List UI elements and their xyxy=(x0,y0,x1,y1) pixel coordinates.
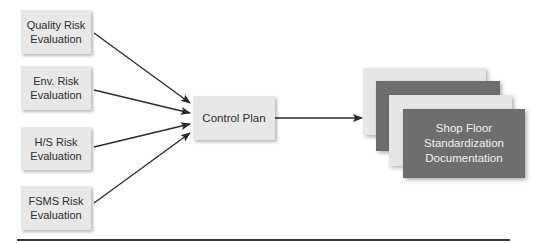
bottom-divider xyxy=(17,239,510,241)
box-label-line2: Evaluation xyxy=(29,208,84,222)
arrow-quality-to-control xyxy=(94,33,190,103)
box-label-line2: Evaluation xyxy=(27,32,86,46)
env-risk-evaluation-box: Env. Risk Evaluation xyxy=(21,66,91,110)
hs-risk-evaluation-box: H/S Risk Evaluation xyxy=(21,127,91,170)
box-label-line2: Evaluation xyxy=(30,149,81,163)
box-label-line1: FSMS Risk xyxy=(29,194,84,208)
fsms-risk-evaluation-box: FSMS Risk Evaluation xyxy=(21,186,91,230)
box-label-line1: H/S Risk xyxy=(30,135,81,149)
control-plan-box: Control Plan xyxy=(193,96,275,140)
doc-label-line3: Documentation xyxy=(425,151,502,166)
shop-floor-documentation-label: Shop Floor Standardization Documentation xyxy=(403,109,525,178)
box-label-line1: Quality Risk xyxy=(27,18,86,32)
box-label-line1: Env. Risk xyxy=(30,74,81,88)
doc-label-line2: Standardization xyxy=(424,136,504,151)
box-label-line2: Evaluation xyxy=(30,88,81,102)
quality-risk-evaluation-box: Quality Risk Evaluation xyxy=(21,10,91,54)
doc-label-line1: Shop Floor xyxy=(436,121,492,136)
control-plan-label: Control Plan xyxy=(202,111,265,125)
arrow-env-to-control xyxy=(94,90,190,113)
